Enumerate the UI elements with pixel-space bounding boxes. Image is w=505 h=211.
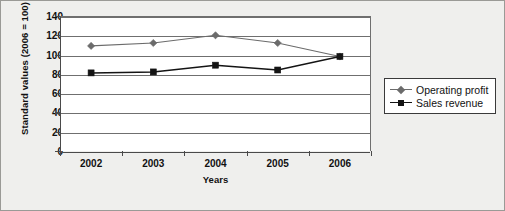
series-operating-profit (88, 32, 344, 60)
data-point-marker (88, 42, 95, 49)
x-axis-tick-label: 2006 (310, 158, 370, 169)
x-axis-tick-label: 2002 (61, 158, 121, 169)
x-axis-tick-mark (309, 151, 310, 156)
data-point-marker (275, 67, 281, 73)
legend-item: Sales revenue (390, 96, 488, 109)
x-axis-tick-label: 2003 (123, 158, 183, 169)
square-marker-icon (390, 97, 412, 108)
data-point-marker (337, 54, 343, 60)
data-point-marker (150, 69, 156, 75)
data-point-marker (213, 62, 219, 68)
x-axis-tick-mark (60, 151, 61, 156)
chart-legend: Operating profitSales revenue (384, 78, 496, 114)
data-point-marker (274, 39, 281, 46)
legend-item: Operating profit (390, 83, 488, 96)
data-point-marker (150, 39, 157, 46)
series-sales-revenue (88, 54, 343, 76)
legend-key-marker (398, 100, 404, 106)
x-axis-tick-mark (184, 151, 185, 156)
x-axis-title: Years (60, 174, 371, 185)
gridline (61, 152, 370, 153)
chart-figure: Standard values (2006 = 100) 14012010080… (0, 0, 505, 211)
x-axis-tick-mark (122, 151, 123, 156)
x-axis-tick-mark (247, 151, 248, 156)
legend-label: Sales revenue (416, 97, 483, 109)
legend-label: Operating profit (416, 84, 488, 96)
data-point-marker (88, 70, 94, 76)
diamond-marker-icon (390, 84, 412, 95)
x-axis-tick-label: 2004 (186, 158, 246, 169)
legend-key-marker (397, 85, 405, 93)
x-axis-tick-label: 2005 (248, 158, 308, 169)
x-axis-tick-mark (371, 151, 372, 156)
series-layer (60, 16, 371, 151)
data-point-marker (212, 32, 219, 39)
